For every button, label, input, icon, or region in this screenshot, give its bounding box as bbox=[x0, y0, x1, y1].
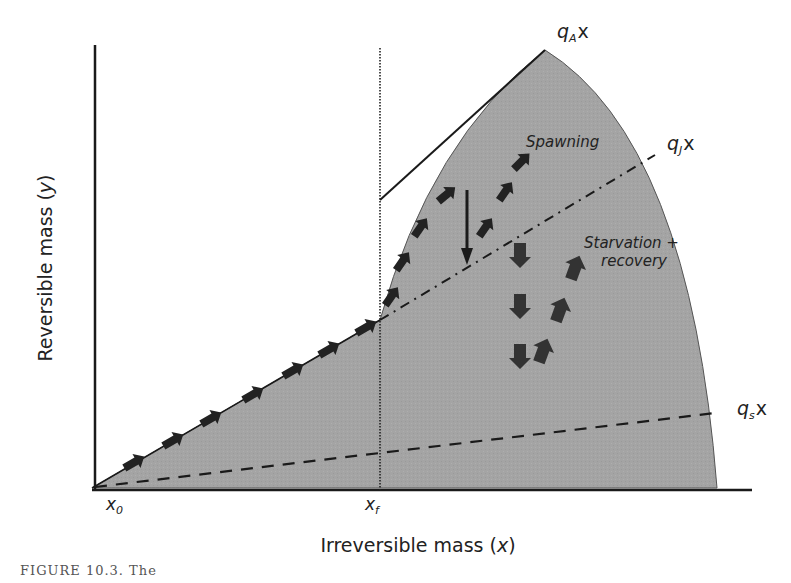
qJ-label: qJx bbox=[667, 132, 695, 157]
x-axis-title: Irreversible mass (x) bbox=[320, 534, 515, 556]
x0-tick-label: x0 bbox=[105, 494, 123, 517]
y-axis-title: Reversible mass (y) bbox=[34, 174, 56, 361]
qA-label: qAx bbox=[557, 20, 589, 45]
recovery-label: recovery bbox=[601, 252, 668, 270]
xf-tick-label: xf bbox=[364, 494, 381, 517]
starvation-label: Starvation + bbox=[584, 234, 679, 252]
state-space-diagram: qAx qJx qsx Spawning Starvation + recove… bbox=[0, 0, 791, 583]
figure-caption: FIGURE 10.3. The bbox=[20, 563, 157, 578]
spawning-label: Spawning bbox=[526, 133, 599, 151]
qs-label: qsx bbox=[737, 397, 767, 422]
